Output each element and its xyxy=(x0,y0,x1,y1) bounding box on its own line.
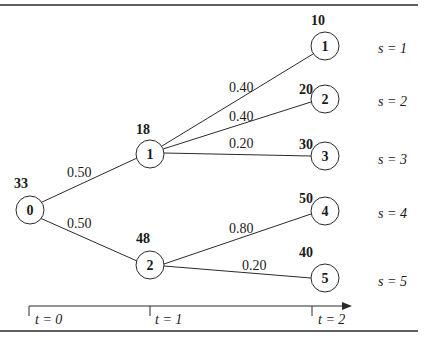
tick-label-t2: t = 2 xyxy=(318,312,345,327)
node-root: 0 33 xyxy=(14,176,44,224)
node-leaf-1: 1 10 xyxy=(311,13,339,60)
node-value: 18 xyxy=(136,122,150,137)
node-label: 1 xyxy=(147,147,154,162)
axis-arrow-icon xyxy=(342,302,352,310)
prob-1-leaf1: 0.40 xyxy=(229,80,254,95)
prob-1-leaf3: 0.20 xyxy=(229,136,254,151)
edge-2-leaf5 xyxy=(164,266,311,278)
prob-2-leaf4: 0.80 xyxy=(229,221,254,236)
tick-label-t0: t = 0 xyxy=(35,312,62,327)
edge-1-leaf3 xyxy=(164,153,311,156)
node-label: 5 xyxy=(322,271,329,286)
node-label: 0 xyxy=(27,203,34,218)
node-value: 30 xyxy=(299,137,313,152)
node-leaf-5: 5 40 xyxy=(299,245,339,292)
node-value: 20 xyxy=(299,82,313,97)
node-value: 33 xyxy=(14,176,28,191)
prob-1-leaf2: 0.40 xyxy=(229,109,254,124)
node-label: 3 xyxy=(322,149,329,164)
scenario-tree-diagram: 0.50 0.50 0.40 0.40 0.20 0.80 0.20 0 33 … xyxy=(0,0,424,340)
prob-2-leaf5: 0.20 xyxy=(242,258,267,273)
node-value: 48 xyxy=(136,231,150,246)
scenario-label-4: s = 4 xyxy=(378,206,407,221)
node-stage1-2: 2 48 xyxy=(136,231,164,279)
scenario-label-5: s = 5 xyxy=(378,274,407,289)
node-value: 40 xyxy=(299,245,313,260)
node-label: 1 xyxy=(322,39,329,54)
node-leaf-2: 2 20 xyxy=(299,82,339,113)
prob-0-1: 0.50 xyxy=(67,165,92,180)
node-leaf-4: 4 50 xyxy=(299,191,339,225)
time-axis xyxy=(29,302,352,316)
node-leaf-3: 3 30 xyxy=(299,137,339,170)
tick-label-t1: t = 1 xyxy=(155,312,182,327)
node-label: 2 xyxy=(322,92,329,107)
node-label: 4 xyxy=(322,204,329,219)
scenario-label-2: s = 2 xyxy=(378,94,407,109)
edge-1-leaf1 xyxy=(162,54,313,146)
node-value: 50 xyxy=(299,191,313,206)
scenario-label-1: s = 1 xyxy=(378,41,407,56)
node-label: 2 xyxy=(147,258,154,273)
scenario-label-3: s = 3 xyxy=(378,152,407,167)
node-stage1-1: 1 18 xyxy=(136,122,164,168)
node-value: 10 xyxy=(311,13,325,28)
prob-0-2: 0.50 xyxy=(67,216,92,231)
